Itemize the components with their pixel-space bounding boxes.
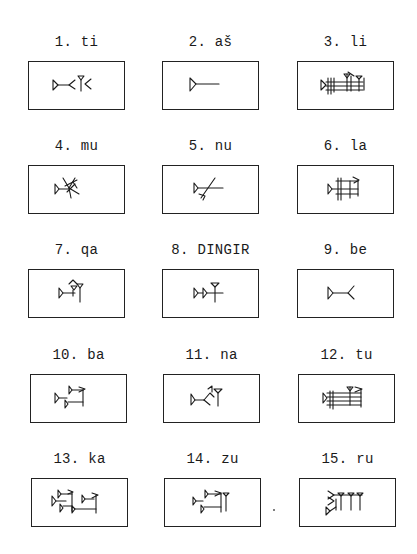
sign-box — [297, 61, 394, 110]
sign-label: 12. tu — [298, 347, 395, 363]
ba-sign-icon — [31, 375, 126, 422]
ka-sign-icon — [32, 479, 127, 526]
tu-sign-icon — [299, 375, 394, 422]
sign-label: 4. mu — [28, 138, 125, 154]
sign-label: 13. ka — [31, 451, 128, 467]
sign-label: 8. DINGIR — [162, 242, 259, 258]
sign-box — [163, 374, 260, 423]
sign-cell-8: 8. DINGIR — [162, 242, 259, 322]
sign-box — [164, 478, 261, 527]
sign-cell-4: 4. mu — [28, 138, 125, 218]
ru-sign-icon — [300, 479, 395, 526]
sign-box — [30, 374, 127, 423]
sign-label: 10. ba — [30, 347, 127, 363]
sign-label: 11. na — [163, 347, 260, 363]
zu-sign-icon — [165, 479, 260, 526]
speck-mark — [273, 509, 275, 511]
mu-sign-icon — [29, 166, 124, 213]
sign-box — [162, 165, 259, 214]
li-sign-icon — [298, 62, 393, 109]
ash-sign-icon — [163, 62, 258, 109]
sign-cell-13: 13. ka — [31, 451, 128, 531]
sign-label: 1. ti — [28, 34, 125, 50]
sign-label: 14. zu — [164, 451, 261, 467]
sign-box — [28, 269, 125, 318]
sign-cell-9: 9. be — [297, 242, 394, 322]
na-sign-icon — [164, 375, 259, 422]
sign-box — [28, 165, 125, 214]
sign-cell-15: 15. ru — [299, 451, 396, 531]
sign-cell-11: 11. na — [163, 347, 260, 427]
sign-label: 9. be — [297, 242, 394, 258]
sign-box — [162, 269, 259, 318]
sign-box — [297, 269, 394, 318]
sign-box — [298, 374, 395, 423]
sign-cell-7: 7. qa — [28, 242, 125, 322]
sign-cell-6: 6. la — [297, 138, 394, 218]
sign-label: 2. aš — [162, 34, 259, 50]
dingir-sign-icon — [163, 270, 258, 317]
sign-cell-3: 3. li — [297, 34, 394, 114]
qa-sign-icon — [29, 270, 124, 317]
sign-box — [299, 478, 396, 527]
sign-label: 6. la — [297, 138, 394, 154]
be-sign-icon — [298, 270, 393, 317]
sign-cell-5: 5. nu — [162, 138, 259, 218]
sign-box — [162, 61, 259, 110]
sign-label: 7. qa — [28, 242, 125, 258]
sign-cell-1: 1. ti — [28, 34, 125, 114]
sign-cell-10: 10. ba — [30, 347, 127, 427]
sign-cell-12: 12. tu — [298, 347, 395, 427]
sign-box — [31, 478, 128, 527]
nu-sign-icon — [163, 166, 258, 213]
sign-box — [28, 61, 125, 110]
la-sign-icon — [298, 166, 393, 213]
sign-cell-2: 2. aš — [162, 34, 259, 114]
sign-label: 3. li — [297, 34, 394, 50]
ti-sign-icon — [29, 62, 124, 109]
sign-box — [297, 165, 394, 214]
sign-label: 5. nu — [162, 138, 259, 154]
sign-cell-14: 14. zu — [164, 451, 261, 531]
sign-label: 15. ru — [299, 451, 396, 467]
